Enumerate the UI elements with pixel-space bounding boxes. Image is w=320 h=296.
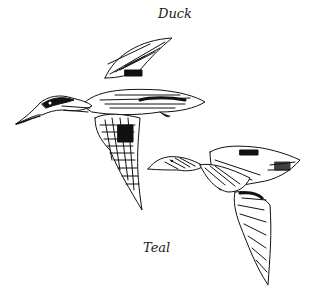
illustration-canvas: Duck Teal	[0, 0, 320, 296]
teal-figure	[148, 146, 300, 285]
duck-label: Duck	[158, 6, 192, 21]
teal-label: Teal	[143, 240, 170, 255]
duck-figure	[16, 38, 205, 210]
